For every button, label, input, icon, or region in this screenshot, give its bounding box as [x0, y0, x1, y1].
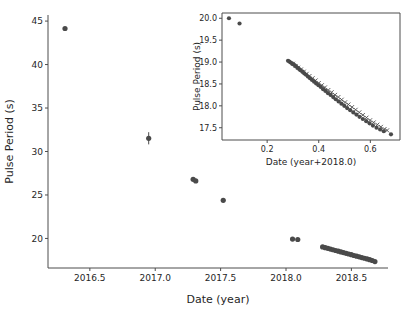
pulse-period-scatter-figure: 2016.52017.02017.52018.02018.52025303540… [0, 0, 413, 311]
data-point [237, 21, 241, 25]
data-point [290, 236, 295, 241]
ytick-label-main-3: 35 [32, 103, 43, 113]
main-ylabel: Pulse Period (s) [3, 99, 16, 184]
data-point [295, 237, 300, 242]
data-point [374, 126, 378, 130]
data-point [221, 198, 226, 203]
ytick-label-inset-5: 20.0 [199, 14, 217, 23]
xtick-label-main-1: 2017.0 [139, 273, 171, 283]
ytick-label-main-2: 30 [32, 147, 44, 157]
inset-xlabel: Date (year+2018.0) [266, 157, 357, 167]
axes-inset: 0.20.40.617.518.018.519.019.520.0 [199, 13, 400, 154]
xtick-label-main-3: 2018.0 [270, 273, 302, 283]
ytick-label-inset-0: 17.5 [199, 124, 217, 133]
main-xlabel: Date (year) [187, 293, 250, 306]
xtick-label-inset-1: 0.4 [312, 145, 325, 154]
inset-ylabel: Pulse Period (s) [192, 42, 202, 111]
data-point [227, 16, 231, 20]
xtick-label-main-2: 2017.5 [205, 273, 237, 283]
xtick-label-inset-2: 0.6 [364, 145, 377, 154]
xtick-label-main-0: 2016.5 [74, 273, 106, 283]
figure-container: 2016.52017.02017.52018.02018.52025303540… [0, 0, 413, 311]
ytick-label-main-0: 20 [32, 234, 44, 244]
ytick-label-main-1: 25 [32, 190, 43, 200]
data-point [193, 178, 198, 183]
ytick-label-main-4: 40 [32, 60, 44, 70]
ytick-label-main-5: 45 [32, 16, 43, 26]
xtick-label-main-4: 2018.5 [336, 273, 368, 283]
data-point [371, 123, 375, 127]
xtick-label-inset-0: 0.2 [261, 145, 274, 154]
data-point [372, 259, 377, 264]
data-point [62, 26, 67, 31]
data-point [389, 132, 393, 136]
